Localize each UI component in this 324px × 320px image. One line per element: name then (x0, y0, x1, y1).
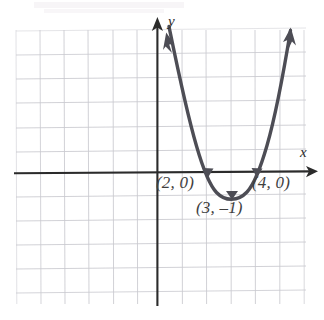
curve-arrow-right-icon (283, 28, 296, 51)
point-label-vertex: (3, –1) (196, 199, 243, 216)
point-label-root-left: (2, 0) (156, 174, 194, 191)
y-axis-label: y (168, 14, 175, 29)
coordinate-plane-svg (0, 0, 324, 320)
scan-artifact (34, 2, 184, 13)
axes (14, 17, 318, 306)
x-axis-label: x (300, 145, 307, 160)
point-label-root-right: (4, 0) (252, 174, 290, 191)
grid-lines (16, 28, 306, 304)
graph-figure: (2, 0) (4, 0) (3, –1) x y (0, 0, 324, 320)
